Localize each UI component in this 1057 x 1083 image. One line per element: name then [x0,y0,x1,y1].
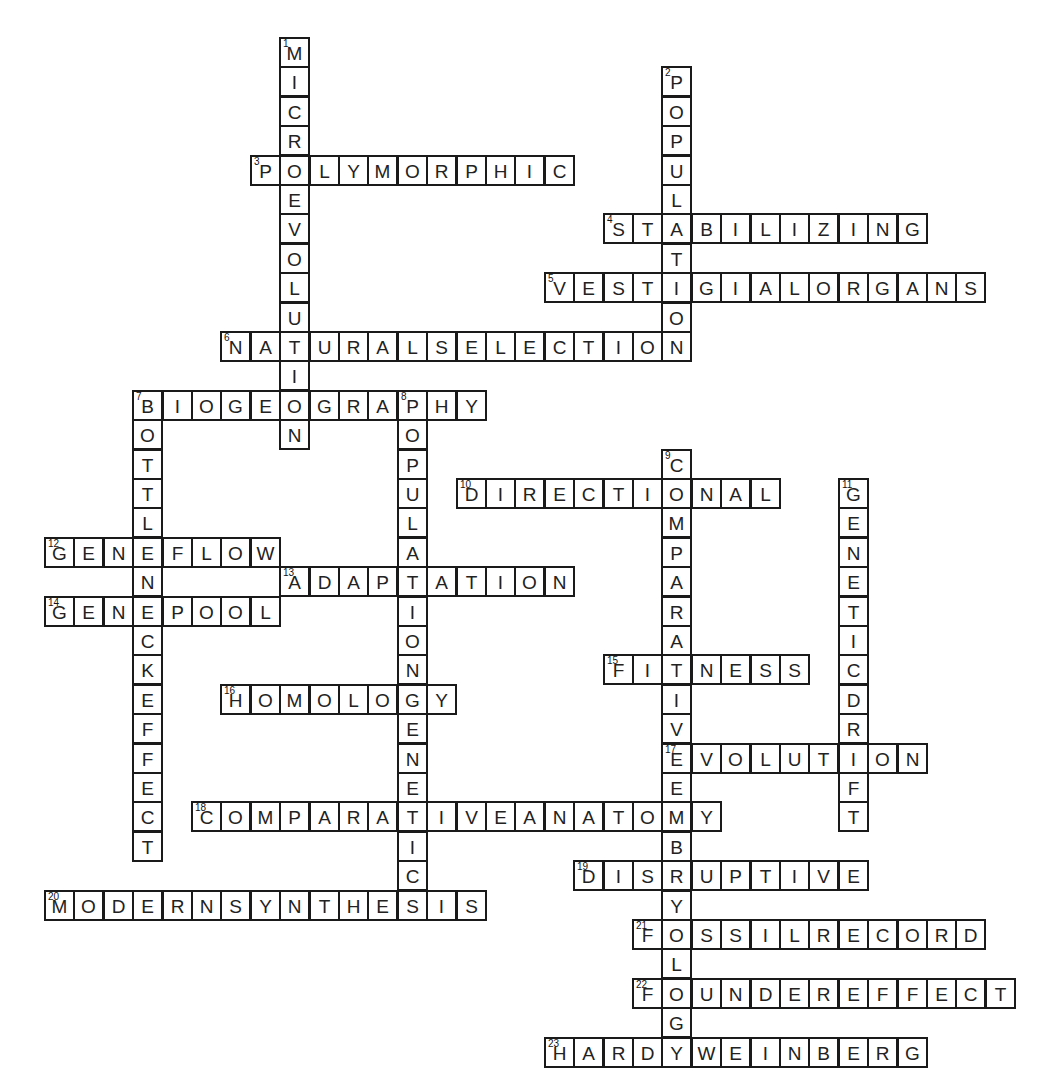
crossword-cell[interactable]: O [279,243,310,274]
crossword-cell[interactable]: A [250,331,281,362]
crossword-cell[interactable]: T [132,831,163,862]
crossword-cell[interactable]: C [544,331,575,362]
crossword-cell[interactable]: I [279,360,310,391]
crossword-cell[interactable]: L [750,478,781,509]
crossword-cell[interactable]: I [279,66,310,97]
crossword-cell[interactable]: B [808,1037,839,1068]
crossword-cell[interactable]: L [132,507,163,538]
crossword-cell[interactable]: E [514,331,545,362]
crossword-cell[interactable]: P [397,449,428,480]
crossword-cell[interactable]: E [838,860,869,891]
crossword-cell[interactable]: W [250,537,281,568]
crossword-cell[interactable]: S [955,272,986,303]
crossword-cell[interactable]: S [220,890,251,921]
crossword-cell[interactable]: I [485,566,516,597]
crossword-cell[interactable]: L [279,272,310,303]
crossword-cell[interactable]: F [838,772,869,803]
crossword-cell[interactable]: O [397,625,428,656]
crossword-cell[interactable]: O [191,390,222,421]
crossword-cell[interactable]: Y [426,684,457,715]
crossword-cell[interactable]: 20M [44,890,75,921]
crossword-cell[interactable]: L [779,919,810,950]
crossword-cell[interactable]: C [132,625,163,656]
crossword-cell[interactable]: D [750,978,781,1009]
crossword-cell[interactable]: D [309,566,340,597]
crossword-cell[interactable]: A [661,566,692,597]
crossword-cell[interactable]: U [309,331,340,362]
crossword-cell[interactable]: 7B [132,390,163,421]
crossword-cell[interactable]: 2P [661,66,692,97]
crossword-cell[interactable]: L [397,331,428,362]
crossword-cell[interactable]: T [838,801,869,832]
crossword-cell[interactable]: O [191,596,222,627]
crossword-cell[interactable]: Y [661,890,692,921]
crossword-cell[interactable]: L [779,272,810,303]
crossword-cell[interactable]: L [661,184,692,215]
crossword-cell[interactable]: R [926,919,957,950]
crossword-cell[interactable]: N [544,566,575,597]
crossword-cell[interactable]: T [838,596,869,627]
crossword-cell[interactable]: N [397,743,428,774]
crossword-cell[interactable]: 18C [191,801,222,832]
crossword-cell[interactable]: L [309,155,340,186]
crossword-cell[interactable]: R [279,125,310,156]
crossword-cell[interactable]: 10D [456,478,487,509]
crossword-cell[interactable]: P [720,860,751,891]
crossword-cell[interactable]: G [691,272,722,303]
crossword-cell[interactable]: O [279,155,310,186]
crossword-cell[interactable]: P [367,566,398,597]
crossword-cell[interactable]: E [132,890,163,921]
crossword-cell[interactable]: T [750,860,781,891]
crossword-cell[interactable]: R [838,713,869,744]
crossword-cell[interactable]: R [838,272,869,303]
crossword-cell[interactable]: E [926,978,957,1009]
crossword-cell[interactable]: 12G [44,537,75,568]
crossword-cell[interactable]: O [309,684,340,715]
crossword-cell[interactable]: I [485,478,516,509]
crossword-cell[interactable]: G [897,1037,928,1068]
crossword-cell[interactable]: T [132,449,163,480]
crossword-cell[interactable]: S [720,919,751,950]
crossword-cell[interactable]: 23H [544,1037,575,1068]
crossword-cell[interactable]: I [603,331,634,362]
crossword-cell[interactable]: E [132,537,163,568]
crossword-cell[interactable]: U [661,155,692,186]
crossword-cell[interactable]: O [279,390,310,421]
crossword-cell[interactable]: 8P [397,390,428,421]
crossword-cell[interactable]: G [220,390,251,421]
crossword-cell[interactable]: Y [456,390,487,421]
crossword-cell[interactable]: O [220,537,251,568]
crossword-cell[interactable]: I [750,1037,781,1068]
crossword-cell[interactable]: A [720,478,751,509]
crossword-cell[interactable]: E [367,890,398,921]
crossword-cell[interactable]: 5V [544,272,575,303]
crossword-cell[interactable]: A [750,272,781,303]
crossword-cell[interactable]: R [514,478,545,509]
crossword-cell[interactable]: A [309,801,340,832]
crossword-cell[interactable]: C [132,801,163,832]
crossword-cell[interactable]: Y [691,801,722,832]
crossword-cell[interactable]: O [132,419,163,450]
crossword-cell[interactable]: S [397,890,428,921]
crossword-cell[interactable]: E [838,919,869,950]
crossword-cell[interactable]: G [661,1007,692,1038]
crossword-cell[interactable]: A [367,801,398,832]
crossword-cell[interactable]: N [661,331,692,362]
crossword-cell[interactable]: E [73,596,104,627]
crossword-cell[interactable]: M [279,684,310,715]
crossword-cell[interactable]: I [750,919,781,950]
crossword-cell[interactable]: I [162,390,193,421]
crossword-cell[interactable]: B [691,213,722,244]
crossword-cell[interactable]: C [397,860,428,891]
crossword-cell[interactable]: F [162,537,193,568]
crossword-cell[interactable]: A [397,537,428,568]
crossword-cell[interactable]: H [338,890,369,921]
crossword-cell[interactable]: 6N [220,331,251,362]
crossword-cell[interactable]: G [867,272,898,303]
crossword-cell[interactable]: 19D [573,860,604,891]
crossword-cell[interactable]: N [779,1037,810,1068]
crossword-cell[interactable]: E [132,772,163,803]
crossword-cell[interactable]: C [573,478,604,509]
crossword-cell[interactable]: O [720,743,751,774]
crossword-cell[interactable]: U [691,860,722,891]
